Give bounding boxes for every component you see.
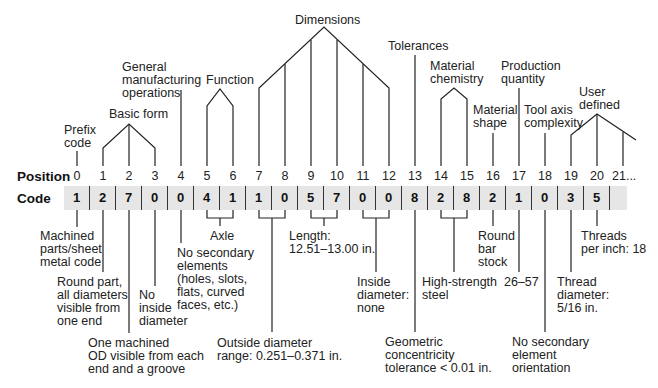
code-cell: 2	[428, 186, 454, 210]
label-length: Length: 12.51–13.00 in.	[289, 230, 375, 256]
position-number: 17	[506, 169, 532, 183]
code-cell: 2	[480, 186, 506, 210]
code-cell: 7	[324, 186, 350, 210]
label-round-bar-stock: Round bar stock	[478, 230, 515, 269]
position-number: 14	[428, 169, 454, 183]
position-number: 1	[90, 169, 116, 183]
label-threads-per-inch: Threads per inch: 18	[581, 230, 646, 256]
position-number: 10	[324, 169, 350, 183]
position-number: 6	[220, 169, 246, 183]
position-number: 0	[64, 169, 90, 183]
position-number: 16	[480, 169, 506, 183]
code-cell: 1	[506, 186, 532, 210]
position-number: 18	[532, 169, 558, 183]
position-number: 20	[584, 169, 610, 183]
code-cell: 0	[532, 186, 558, 210]
label-production-quantity: Production quantity	[501, 60, 561, 86]
code-cell: 0	[272, 186, 298, 210]
position-row-header: Position	[17, 169, 70, 184]
label-one-machined-od: One machined OD visible from each end an…	[88, 337, 204, 376]
position-number: 12	[376, 169, 402, 183]
label-user-defined: User defined	[579, 86, 620, 112]
label-machined-parts: Machined parts/sheet metal code	[40, 230, 102, 269]
position-number: 5	[194, 169, 220, 183]
position-number: 19	[558, 169, 584, 183]
label-dimensions: Dimensions	[295, 14, 360, 27]
position-number: 2	[116, 169, 142, 183]
code-cell: 0	[350, 186, 376, 210]
label-thread-diameter: Thread diameter: 5/16 in.	[557, 276, 609, 315]
code-cell: 0	[142, 186, 168, 210]
label-material-chemistry: Material chemistry	[430, 60, 483, 86]
label-prefix-code: Prefix code	[64, 124, 96, 150]
code-cell: 1	[64, 186, 90, 210]
label-tolerances: Tolerances	[388, 40, 448, 53]
position-number: 8	[272, 169, 298, 183]
label-production-26-57: 26–57	[504, 276, 539, 289]
label-geometric-concentricity: Geometric concentricity tolerance < 0.01…	[385, 336, 492, 375]
code-cell: 0	[168, 186, 194, 210]
position-number: 4	[168, 169, 194, 183]
label-round-part: Round part, all diameters visible from o…	[57, 276, 128, 328]
label-tool-axis-complexity: Tool axis complexity	[524, 104, 583, 130]
code-row-header: Code	[17, 191, 51, 206]
code-cell: 8	[454, 186, 480, 210]
code-cell: 5	[298, 186, 324, 210]
label-high-strength-steel: High-strength steel	[422, 276, 497, 302]
position-number: 3	[142, 169, 168, 183]
code-cell: 4	[194, 186, 220, 210]
code-cell: 3	[558, 186, 584, 210]
label-axle: Axle	[210, 230, 234, 243]
label-general-manufacturing: General manufacturing operations	[122, 61, 201, 100]
label-no-secondary-elements: No secondary elements (holes, slots, fla…	[177, 247, 254, 312]
code-cell: 0	[376, 186, 402, 210]
code-cell: 7	[116, 186, 142, 210]
label-basic-form: Basic form	[109, 108, 168, 121]
label-no-secondary-orientation: No secondary element orientation	[512, 336, 589, 375]
label-inside-diameter-none: Inside diameter: none	[357, 276, 409, 315]
position-number: 7	[246, 169, 272, 183]
position-number: 21...	[612, 169, 648, 183]
label-material-shape: Material shape	[473, 104, 517, 130]
position-number: 9	[298, 169, 324, 183]
code-cell: 5	[584, 186, 610, 210]
code-cell: 1	[246, 186, 272, 210]
code-cell: 1	[220, 186, 246, 210]
code-cell	[610, 186, 627, 210]
code-cell: 2	[90, 186, 116, 210]
label-function: Function	[206, 74, 254, 87]
position-number: 11	[350, 169, 376, 183]
position-number: 15	[454, 169, 480, 183]
label-outside-diameter: Outside diameter range: 0.251–0.371 in.	[217, 337, 342, 363]
position-number: 13	[402, 169, 428, 183]
code-cell: 8	[402, 186, 428, 210]
